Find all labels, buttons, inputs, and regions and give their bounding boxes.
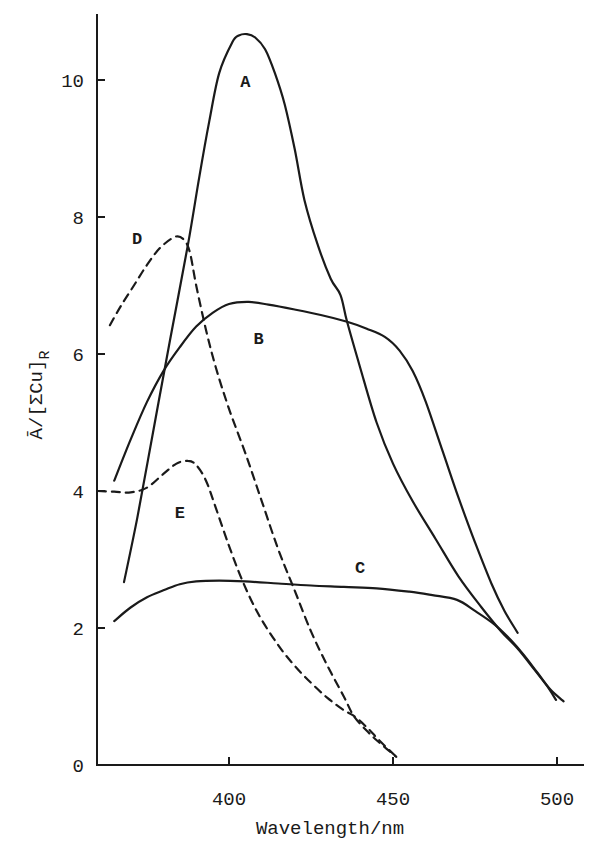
curve-label-e: E <box>175 504 185 523</box>
y-axis-title-subscript: R <box>37 351 54 360</box>
plot-area: ABCDE <box>98 34 564 757</box>
curve-label-b: B <box>253 330 263 349</box>
y-tick-label: 4 <box>73 482 84 504</box>
y-axis-ticks: 0246810 <box>61 71 105 778</box>
y-axis-title-main: Ā/[ΣCu] <box>26 360 48 440</box>
y-tick-label: 8 <box>73 208 84 230</box>
curve-c <box>114 581 563 702</box>
x-tick-label: 400 <box>212 789 246 811</box>
y-axis-title: Ā/[ΣCu]R <box>26 351 54 440</box>
curve-label-c: C <box>355 559 365 578</box>
spectra-chart: ABCDE 0246810 400450500 Wavelength/nm Ā/… <box>0 0 608 846</box>
x-tick-label: 500 <box>540 789 574 811</box>
curve-a <box>124 34 556 700</box>
curve-label-d: D <box>132 230 142 249</box>
curve-labels: ABCDE <box>132 73 365 578</box>
y-tick-label: 2 <box>73 619 84 641</box>
curve-b <box>114 302 517 633</box>
x-axis-title: Wavelength/nm <box>256 818 404 840</box>
series-layer <box>98 34 564 757</box>
y-tick-label: 0 <box>73 756 84 778</box>
curve-label-a: A <box>240 73 251 92</box>
y-tick-label: 6 <box>73 345 84 367</box>
curve-d <box>110 236 396 757</box>
x-tick-label: 450 <box>376 789 410 811</box>
y-tick-label: 10 <box>61 71 84 93</box>
